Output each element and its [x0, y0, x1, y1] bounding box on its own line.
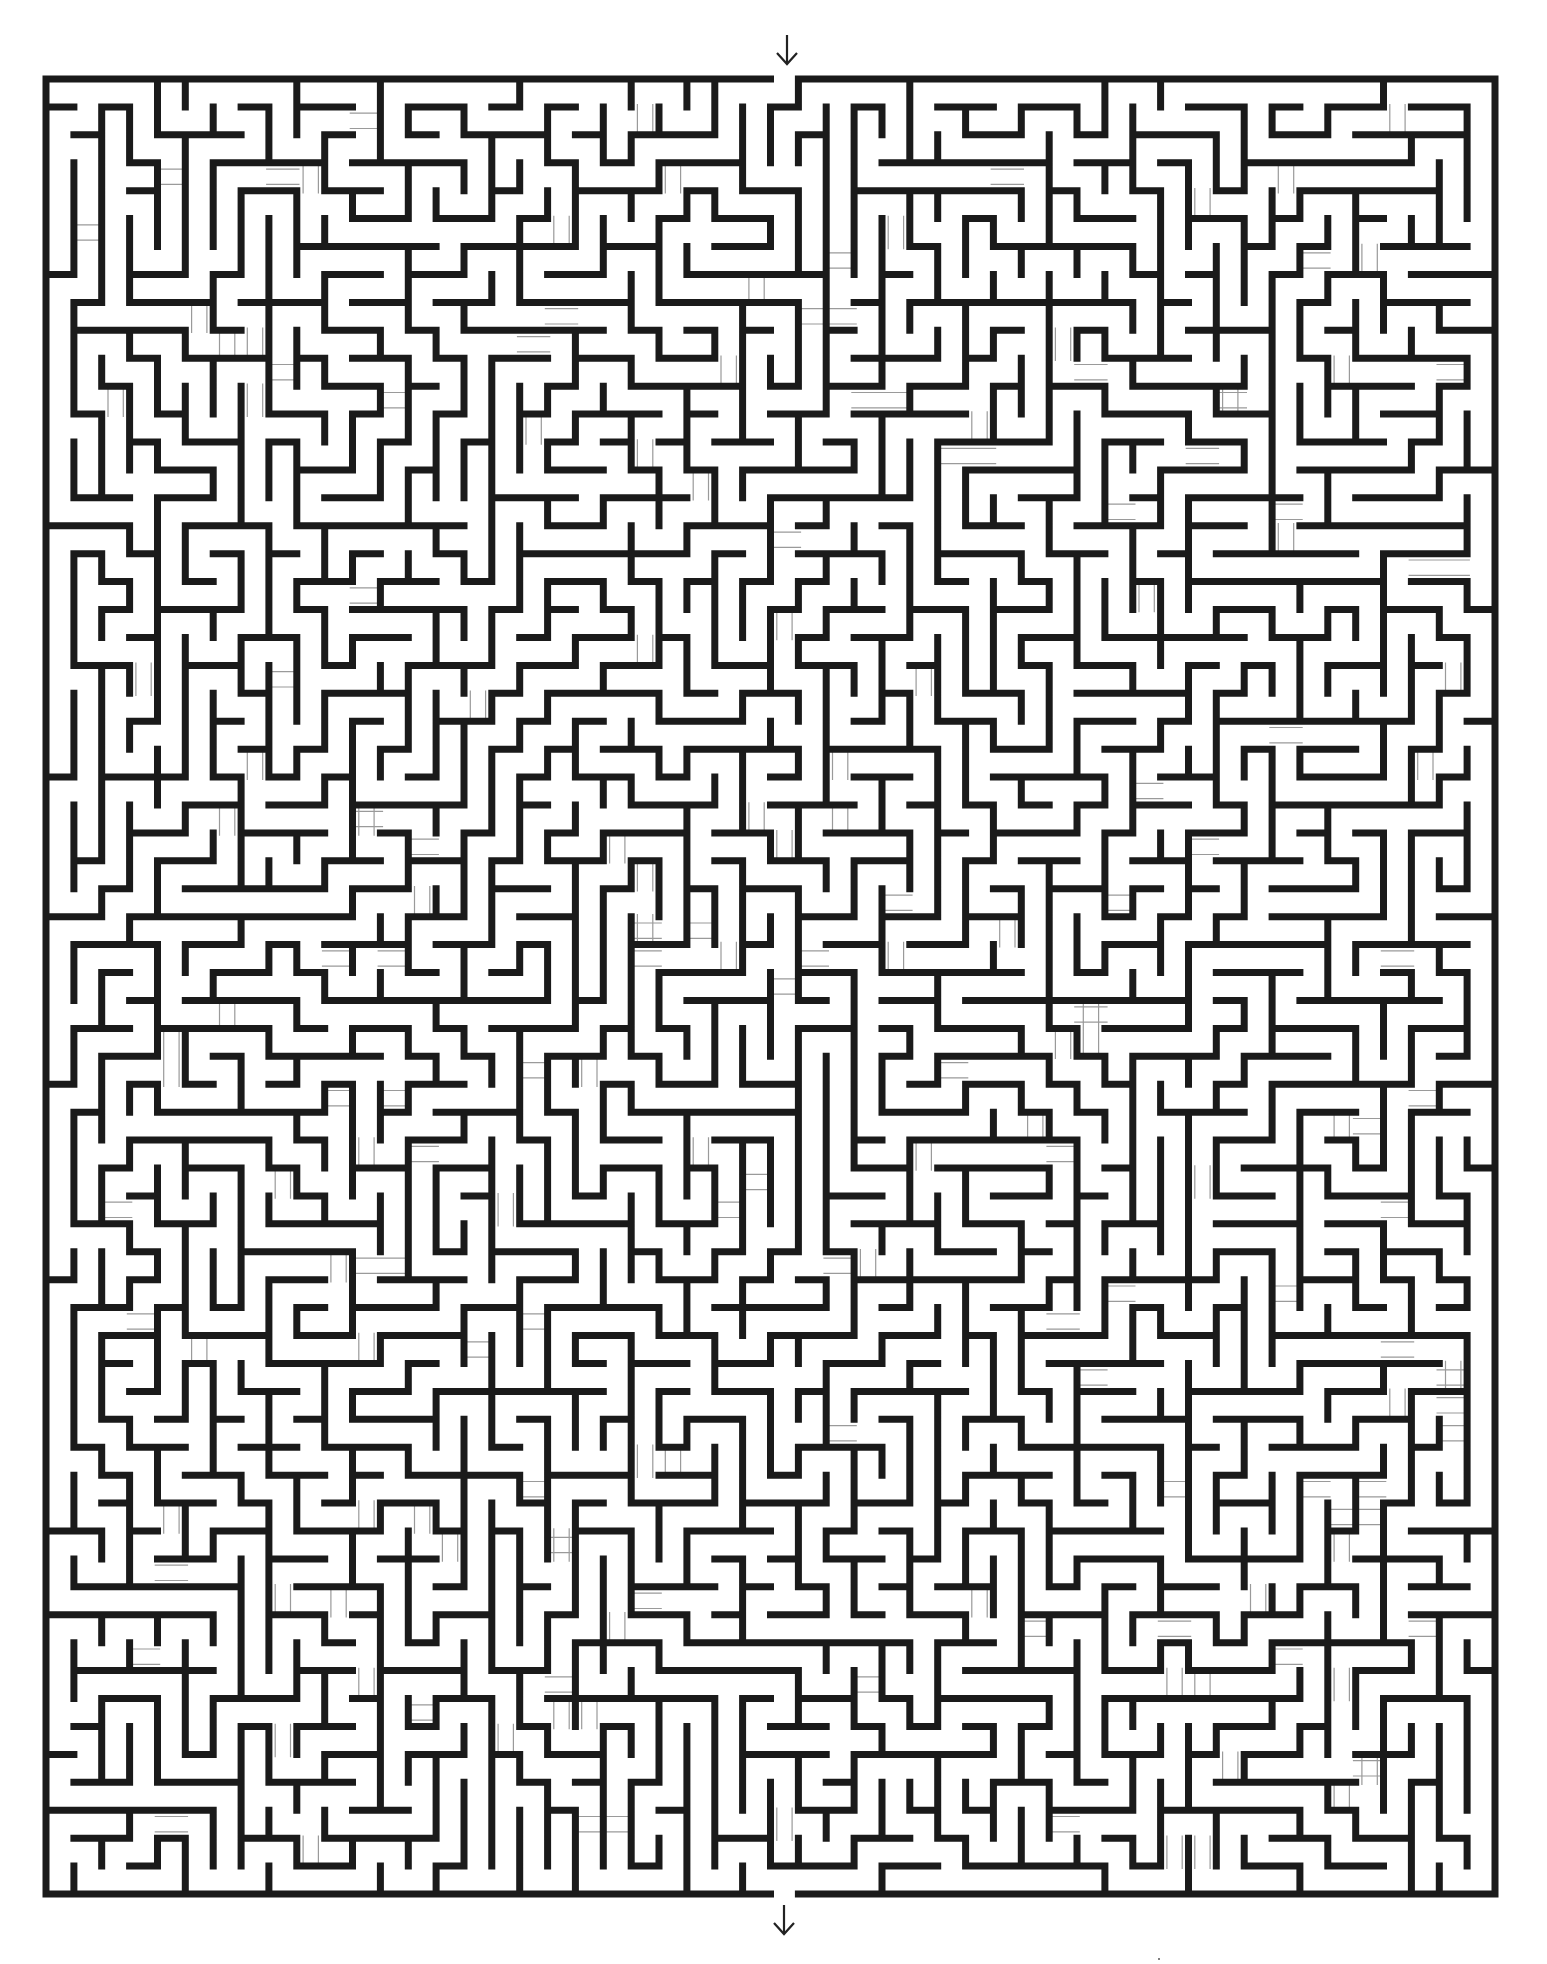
entrance-arrow-icon	[772, 33, 802, 67]
maze-puzzle: Maze puzzle Start Finish	[0, 0, 1547, 1964]
paper-speck	[1158, 1958, 1160, 1960]
exit-arrow-icon	[769, 1903, 799, 1937]
maze-grid	[0, 0, 1547, 1964]
